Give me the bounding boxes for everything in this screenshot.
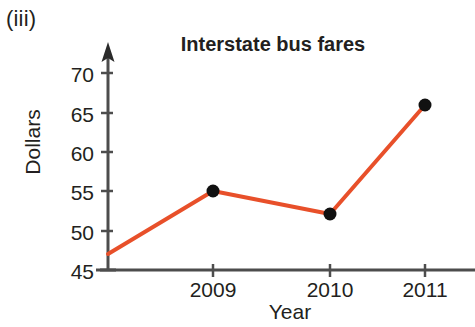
chart-figure: (iii) Interstate bus fares Dollars Year … [0, 0, 475, 327]
data-point-2009 [207, 185, 220, 198]
plot-area [0, 0, 475, 327]
data-line-interstate-bus-fares [108, 105, 425, 254]
data-point-2011 [419, 99, 432, 112]
data-point-2010 [324, 208, 337, 221]
